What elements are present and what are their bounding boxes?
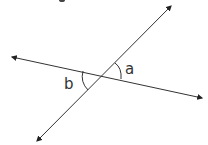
angle-a-arc — [115, 63, 121, 79]
line-2 — [37, 6, 171, 141]
cropped-glyph — [59, 0, 65, 2]
angle-b-label: b — [64, 75, 74, 93]
intersecting-lines-diagram: a b — [0, 0, 208, 145]
angle-a-label: a — [125, 60, 134, 78]
angle-b-arc — [82, 71, 88, 90]
line-1 — [12, 57, 202, 98]
